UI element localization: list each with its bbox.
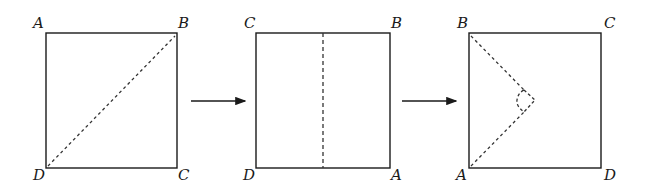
corner-label: D: [33, 168, 45, 183]
corner-label: B: [391, 16, 402, 31]
panel-step-2: [256, 33, 390, 168]
corner-label: A: [456, 168, 467, 183]
diagram-canvas: [0, 0, 648, 185]
corner-label: C: [604, 16, 615, 31]
panel-step-3: [469, 33, 601, 168]
upper-fold-line: [471, 36, 524, 90]
corner-label: D: [604, 168, 616, 183]
corner-label: A: [33, 16, 44, 31]
corner-label: A: [391, 168, 402, 183]
fold-circle: [517, 90, 535, 112]
corner-label: D: [243, 168, 255, 183]
corner-label: B: [457, 16, 468, 31]
panel-step-1: [46, 33, 177, 168]
corner-label: C: [244, 16, 255, 31]
diagonal-fold-line: [48, 36, 175, 166]
folding-diagram: A B D C C B D A B C A D: [0, 0, 648, 185]
corner-label: B: [178, 16, 189, 31]
corner-label: C: [178, 168, 189, 183]
lower-fold-line: [471, 112, 524, 166]
